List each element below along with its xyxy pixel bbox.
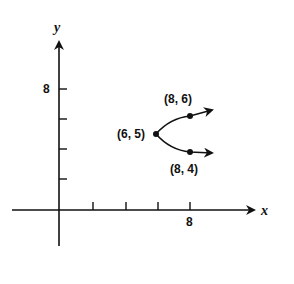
upper-point-label: (8, 6) xyxy=(164,92,192,106)
lower-point xyxy=(187,149,193,155)
vertex-point xyxy=(153,131,159,137)
x-tick-label-8: 8 xyxy=(186,215,193,229)
y-ticks xyxy=(59,89,67,179)
vertex-label: (6, 5) xyxy=(117,127,145,141)
y-tick-label-8: 8 xyxy=(43,82,50,96)
upper-point xyxy=(187,113,193,119)
lower-point-label: (8, 4) xyxy=(170,162,198,176)
upper-branch xyxy=(156,110,212,134)
x-ticks xyxy=(93,202,190,210)
y-axis-label: y xyxy=(52,20,61,35)
x-axis-label: x xyxy=(260,203,268,218)
coordinate-diagram: y x 8 8 (6, 5) (8, 6) (8, 4) xyxy=(0,0,294,284)
lower-branch xyxy=(156,134,212,153)
